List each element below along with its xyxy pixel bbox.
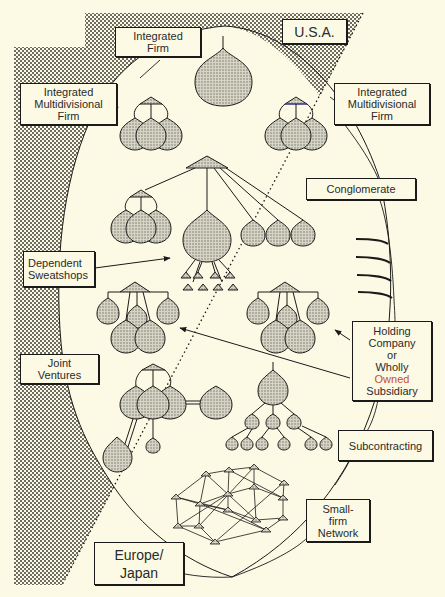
holding-company-subsidiary-text: Subsidiary	[366, 385, 417, 397]
sweatshops-arrow	[95, 258, 170, 268]
integrated-firm-shape	[195, 36, 252, 106]
conglomerate-bars	[356, 239, 392, 298]
label-integrated-multidivisional-right: Integrated Multidivisional Firm	[334, 83, 430, 125]
holding-company-owned-text: Owned	[375, 373, 410, 385]
label-integrated-firm: Integrated Firm	[115, 27, 201, 57]
label-integrated-multidivisional-left: Integrated Multidivisional Firm	[20, 83, 117, 125]
small-firm-network-shape	[171, 464, 289, 544]
label-dependent-sweatshops: Dependent Sweatshops	[23, 251, 95, 287]
subcontracting-shape	[226, 362, 332, 450]
holding-company-left-shape	[97, 282, 179, 353]
label-usa-region: U.S.A.	[282, 19, 347, 44]
holding-company-right-shape	[247, 282, 329, 353]
holding-company-arrow-right	[335, 330, 350, 340]
conglomerate-shape	[111, 156, 315, 290]
label-holding-company: Holding Company or Wholly Owned Subsidia…	[352, 321, 432, 401]
holding-company-text: Holding Company or Wholly	[368, 325, 415, 373]
label-subcontracting: Subcontracting	[338, 430, 433, 461]
label-europe-japan-region: Europe/ Japan	[94, 542, 184, 585]
multidivisional-right-shape	[265, 97, 327, 150]
label-small-firm-network: Small- firm Network	[306, 499, 370, 542]
multidivisional-left-shape	[120, 97, 182, 150]
joint-ventures-shape	[103, 364, 232, 472]
label-conglomerate: Conglomerate	[306, 178, 416, 200]
label-joint-ventures: Joint Ventures	[20, 354, 99, 384]
